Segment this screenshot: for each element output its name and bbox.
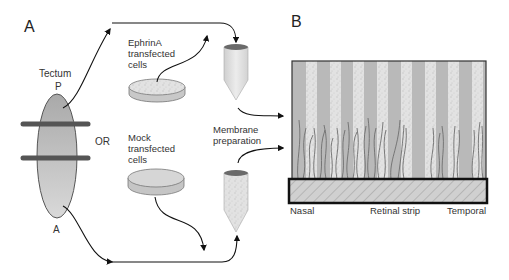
membrane-label-line1: Membrane — [213, 124, 258, 135]
assay-diagram: A B Tectum P A OR EphrinA transfected ce… — [0, 0, 509, 280]
retinal-strip — [289, 179, 487, 203]
posterior-label: P — [55, 81, 62, 92]
ephrin-label-line1: EphrinA — [128, 37, 162, 48]
tectum-title: Tectum — [39, 68, 71, 79]
temporal-label: Temporal — [447, 205, 486, 216]
tectum: Tectum P A OR — [23, 68, 110, 235]
nasal-label: Nasal — [290, 205, 314, 216]
anterior-label: A — [53, 224, 60, 235]
ephrin-label-line3: cells — [128, 59, 147, 70]
panel-b-label: B — [291, 13, 302, 30]
retinal-strip-label: Retinal strip — [370, 205, 420, 216]
stripe-assay — [292, 61, 486, 179]
panel-a-label: A — [24, 18, 35, 35]
mock-label-line2: transfected — [128, 143, 175, 154]
mock-label-line1: Mock — [128, 132, 151, 143]
ephrin-label-line2: transfected — [128, 48, 175, 59]
membrane-label-line2: preparation — [213, 135, 261, 146]
mock-label-line3: cells — [128, 154, 147, 165]
or-label: OR — [95, 136, 110, 147]
mock-dish: Mock transfected cells — [128, 132, 184, 195]
tube-mock — [224, 170, 248, 232]
ephrin-dish: EphrinA transfected cells — [128, 37, 185, 102]
tube-ephrin — [224, 44, 248, 100]
